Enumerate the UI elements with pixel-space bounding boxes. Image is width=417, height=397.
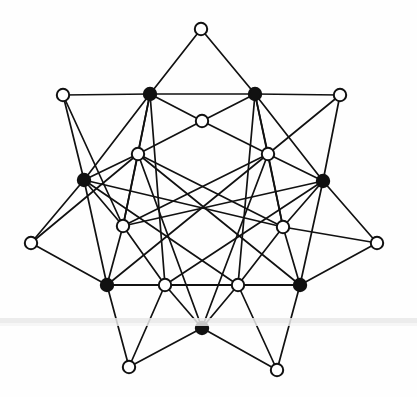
graph-vertex-open[interactable] <box>132 148 144 160</box>
graph-vertex-filled[interactable] <box>196 322 208 334</box>
graph-vertex-filled[interactable] <box>144 88 156 100</box>
graph-vertex-open[interactable] <box>196 115 208 127</box>
graph-vertex-filled[interactable] <box>78 174 90 186</box>
graph-vertex-open[interactable] <box>371 237 383 249</box>
graph-edge <box>138 121 202 154</box>
graph-edge <box>31 180 84 243</box>
graph-vertex-filled[interactable] <box>317 175 329 187</box>
graph-edge <box>84 180 238 285</box>
graph-vertex-open[interactable] <box>232 279 244 291</box>
graph-vertex-open[interactable] <box>159 279 171 291</box>
graph-edge <box>31 243 107 285</box>
graph-vertex-open[interactable] <box>117 220 129 232</box>
graph-edge <box>283 227 377 243</box>
graph-edge <box>255 94 340 95</box>
figure-canvas <box>0 0 417 397</box>
graph-edge <box>238 285 277 370</box>
graph-edge <box>323 181 377 243</box>
graph-edge <box>123 181 323 226</box>
graph-vertex-open[interactable] <box>195 23 207 35</box>
graph-edge <box>201 29 255 94</box>
graph-edge <box>63 95 123 226</box>
graph-vertex-open[interactable] <box>123 361 135 373</box>
graph-vertex-open[interactable] <box>271 364 283 376</box>
graph-edge <box>202 121 268 154</box>
graph-edge <box>150 94 165 285</box>
graph-edge <box>63 94 150 95</box>
graph-edge <box>84 94 150 180</box>
graph-vertex-filled[interactable] <box>294 279 306 291</box>
graph-edge <box>107 226 123 285</box>
graph-edge <box>238 94 255 285</box>
graph-edge <box>283 227 300 285</box>
graph-edge <box>202 285 238 328</box>
graph-edge <box>165 181 323 285</box>
graph-diagram <box>0 0 417 397</box>
graph-edge <box>84 180 283 227</box>
graph-edge <box>150 94 202 121</box>
graph-edge <box>63 95 84 180</box>
graph-vertex-open[interactable] <box>334 89 346 101</box>
graph-vertex-filled[interactable] <box>249 88 261 100</box>
graph-edge <box>84 180 107 285</box>
graph-edge <box>129 285 165 367</box>
graph-edge <box>129 328 202 367</box>
graph-edge <box>123 226 165 285</box>
graph-edge <box>202 328 277 370</box>
graph-edge <box>268 154 323 181</box>
graph-edge <box>165 285 202 328</box>
vertex-layer <box>25 23 383 376</box>
graph-vertex-open[interactable] <box>57 89 69 101</box>
graph-vertex-open[interactable] <box>277 221 289 233</box>
graph-vertex-open[interactable] <box>262 148 274 160</box>
graph-edge <box>150 29 201 94</box>
graph-edge <box>300 243 377 285</box>
graph-edge <box>277 285 300 370</box>
graph-edge <box>202 94 255 121</box>
graph-vertex-open[interactable] <box>25 237 37 249</box>
graph-edge <box>238 227 283 285</box>
graph-vertex-filled[interactable] <box>101 279 113 291</box>
graph-edge <box>107 285 129 367</box>
edge-layer <box>31 29 377 370</box>
